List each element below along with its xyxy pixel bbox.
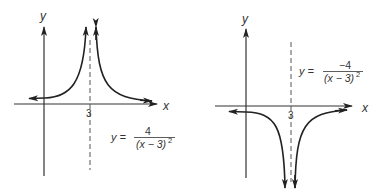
right-y-label: y (241, 12, 249, 26)
right-eq-numerator: −4 (339, 59, 351, 71)
left-equation: y = 4 (x − 3) 2 (110, 125, 175, 150)
left-eq-lhs: y = (110, 131, 127, 143)
right-tick-3: 3 (288, 110, 294, 121)
right-eq-lhs: y = (298, 65, 315, 77)
right-graph-left-tail (229, 112, 246, 113)
left-tick-3: 3 (86, 108, 92, 119)
left-graph: y x 3 y = 4 (x − 3) 2 (14, 9, 175, 176)
right-graph-right-branch (295, 110, 347, 188)
right-graph-left-branch (246, 112, 285, 188)
left-eq-denominator: (x − 3) (136, 138, 166, 150)
right-branch-curve (96, 27, 152, 101)
left-x-label: x (162, 99, 170, 113)
right-x-label: x (361, 101, 369, 115)
left-branch-curve (45, 27, 86, 98)
left-branch-tail (29, 98, 45, 99)
right-equation: y = −4 (x − 3) 2 (298, 59, 363, 84)
right-graph: y x 3 y = −4 (x − 3) 2 (215, 12, 369, 188)
right-branch-arrow-right (140, 100, 152, 101)
right-eq-denominator: (x − 3) (324, 72, 354, 84)
left-y-label: y (39, 9, 47, 23)
left-eq-exponent: 2 (168, 136, 172, 145)
right-graph-right-arrow (335, 110, 347, 111)
right-eq-exponent: 2 (356, 70, 360, 79)
left-eq-numerator: 4 (145, 125, 151, 137)
